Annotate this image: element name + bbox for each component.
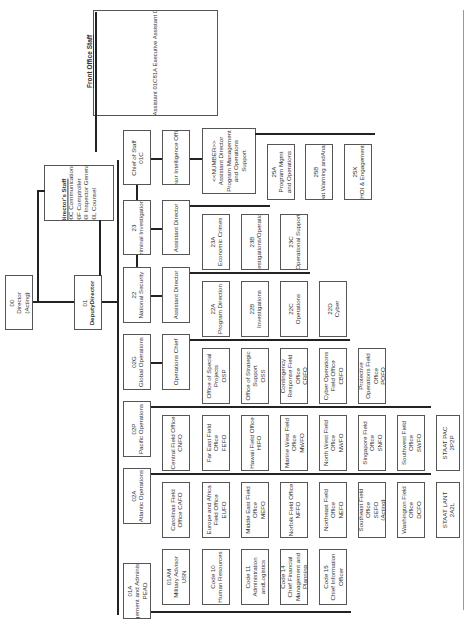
connector <box>151 362 162 364</box>
front-office-title: Front Office Staff <box>86 35 93 88</box>
directorate-chief-of-staff: Chief of Staff01C <box>123 130 151 185</box>
unit-25x: 25XHOI & Engagement <box>344 144 372 200</box>
unit-nffo: Norfolk Field OfficeNFFO <box>280 482 308 538</box>
unit-dcfo: Washington FieldOfficeDCFO <box>397 482 425 538</box>
unit-snfo: Singapore FieldOfficeSNFO <box>358 415 386 471</box>
unit-crfo: ContingencyResponse FieldOfficeCRFO <box>280 348 308 404</box>
unit-mwfo: Marine West FieldOfficeMWFO <box>280 415 308 471</box>
unit-sefo: Southeast FieldOfficeSEFO(Acting) <box>358 482 386 538</box>
unit-22a: 22AProgram Direction <box>202 281 230 337</box>
unit-cnfo: Central Field OfficeCNFO <box>162 415 190 471</box>
unit-hifo: Hawaii Field OfficeHIFO <box>241 415 269 471</box>
connector <box>136 185 138 200</box>
unit-pofo: ProtectiveOperations FieldOfficePOFO <box>358 348 386 404</box>
senior-intelligence-officer: Senior Intelligence Officer <box>162 130 190 185</box>
connector <box>255 133 375 135</box>
unit-22b: 22BInvestigations <box>241 281 269 337</box>
connector <box>37 190 45 192</box>
unit-22d: 22DCyber <box>319 281 347 337</box>
connector <box>102 301 118 303</box>
criminal-assistant-director: Assistant Director <box>162 200 190 255</box>
page-frame-line <box>463 10 464 610</box>
connector-spine <box>117 160 119 615</box>
unit-swfo: Southwest FieldOfficeSWFO <box>397 415 425 471</box>
unit-fefo: Far East FieldOfficeFEFO <box>202 415 230 471</box>
directorate-national-security: 22National Security <box>123 267 151 323</box>
operations-chief: Operations Chief <box>162 334 190 390</box>
connector <box>151 158 162 160</box>
unit-nefo: Northeast FieldOfficeNEFO <box>319 482 347 538</box>
unit-01am: 01AMMilitary AdvisorUSN <box>162 549 190 605</box>
connector <box>151 473 431 475</box>
connector <box>33 301 74 303</box>
connector <box>190 158 202 160</box>
front-office-staff-box: 01CK Senior Strategy Planner/Advisor 01C… <box>93 10 218 116</box>
connector <box>151 228 162 230</box>
directorate-criminal-investigations: 23Criminal Investigations <box>123 200 151 255</box>
connector <box>37 190 39 302</box>
connector <box>99 220 101 276</box>
unit-staat-lant: STAAT LANT2A2L <box>436 482 460 538</box>
unit-23b: 23BInvestigations/Operations <box>241 214 269 270</box>
connector <box>151 406 431 408</box>
unit-25a: 25AProgram Mgmtand Operations <box>267 144 295 200</box>
asst-director-pmos: <<NUMBER>>Assistant DirectorProgram Mana… <box>202 128 256 194</box>
connector <box>136 255 138 267</box>
directorate-management-admin: 01AManagement and AdministrationPEAD <box>123 563 151 619</box>
unit-eufo: Europe and AfricaField OfficeEUFO <box>202 482 230 538</box>
natsec-assistant-director: Assistant Director <box>162 267 190 323</box>
unit-22c: 22COperations <box>280 281 308 337</box>
connector <box>95 12 97 152</box>
directors-staff-box: Director's Staff 00C Communications 00F … <box>44 165 114 221</box>
unit-25b: 25BThreat Warning andAnalysis <box>305 144 333 200</box>
unit-code-15: Code 15Chief InformationOfficer <box>319 549 347 605</box>
unit-23a: 23AEconomic Crimes <box>202 214 230 270</box>
unit-oss: Office of StrategicSupportOSS <box>241 348 269 404</box>
directorate-atlantic-operations: 02AAtlantic Operations <box>123 468 151 524</box>
connector <box>190 205 270 207</box>
directorate-global-operations: 02GGlobal Operations <box>123 334 151 390</box>
connector <box>151 295 162 297</box>
unit-cbfo: Cyber OperationsField OfficeCBFO <box>319 348 347 404</box>
directorate-pacific-operations: 02PPacific Operations <box>123 401 151 457</box>
director-box: 00Director(Acting) <box>5 275 33 330</box>
unit-code-10: Code 10Human Resources <box>202 549 230 605</box>
connector <box>151 611 351 613</box>
connector <box>190 339 350 341</box>
unit-mefo: Middle East FieldOfficeMEFO <box>241 482 269 538</box>
unit-cafo: Carolinas FieldOffice CAFO <box>162 482 190 538</box>
unit-23c: 23COperational Support <box>280 214 308 270</box>
unit-code-11: Code 11AdministrationandLogistics <box>241 549 269 605</box>
unit-staat-pac: STAAT PAC2P2P <box>436 415 460 471</box>
unit-nwfo: North West FieldOfficeNWFO <box>319 415 347 471</box>
connector <box>190 272 310 274</box>
deputy-director-box: 01DeputyDirector <box>74 275 102 330</box>
front-office-list: 01CK Senior Strategy Planner/Advisor 01C… <box>152 10 160 116</box>
unit-code-14: Code 14Chief FinancialManagement andPlan… <box>280 549 308 605</box>
unit-osp: Office of SpecialProjectsOSP <box>202 348 230 404</box>
